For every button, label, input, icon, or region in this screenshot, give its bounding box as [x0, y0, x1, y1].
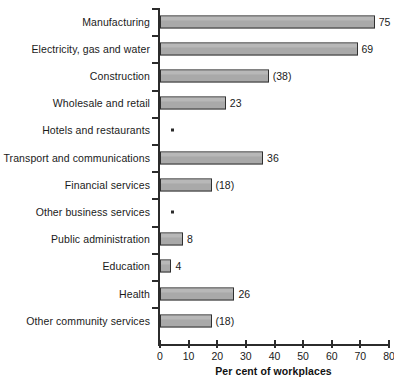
bar-highlight — [161, 288, 233, 292]
bar — [160, 178, 212, 191]
category-label: Construction — [90, 70, 150, 82]
bar-row: Construction(38) — [0, 62, 394, 89]
bar-row: Other business services — [0, 198, 394, 225]
x-axis-tick — [302, 340, 304, 348]
y-axis-tick — [152, 198, 160, 200]
bar-value-label: 36 — [267, 152, 279, 164]
category-label: Hotels and restaurants — [42, 124, 150, 136]
x-axis-tick — [274, 340, 276, 348]
bar — [160, 42, 358, 55]
bar-value-label: (18) — [216, 179, 235, 191]
bar-value-label: 8 — [187, 233, 193, 245]
suppressed-value-marker — [171, 129, 174, 132]
bar-row: Other community services(18) — [0, 307, 394, 334]
bar-highlight — [161, 315, 211, 319]
y-axis-tick — [152, 117, 160, 119]
bar-value-label: (38) — [273, 70, 292, 82]
bar — [160, 233, 183, 246]
category-label: Manufacturing — [82, 16, 150, 28]
category-label: Other business services — [36, 206, 150, 218]
y-axis-tick — [152, 144, 160, 146]
suppressed-value-marker — [171, 210, 174, 213]
y-axis-tick — [152, 280, 160, 282]
bar — [160, 97, 226, 110]
y-axis-tick — [152, 253, 160, 255]
bar-row: Education4 — [0, 253, 394, 280]
y-axis-tick — [152, 226, 160, 228]
y-axis-tick — [152, 90, 160, 92]
y-axis-tick — [152, 35, 160, 37]
x-axis-tick — [188, 340, 190, 348]
bar-highlight — [161, 43, 357, 47]
bar-chart: Manufacturing75Electricity, gas and wate… — [0, 0, 394, 381]
x-axis-tick — [159, 340, 161, 348]
y-axis-tick — [152, 62, 160, 64]
x-axis-tick — [245, 340, 247, 348]
y-axis-tick — [152, 171, 160, 173]
bar — [160, 287, 234, 300]
x-axis-tick-label: 80 — [383, 350, 394, 362]
category-label: Wholesale and retail — [53, 97, 150, 109]
category-label: Financial services — [65, 179, 150, 191]
x-axis-tick — [388, 340, 390, 348]
x-axis-tick-label: 30 — [240, 350, 252, 362]
x-axis-tick — [359, 340, 361, 348]
x-axis-tick-label: 20 — [211, 350, 223, 362]
bar-value-label: 23 — [230, 97, 242, 109]
x-axis-tick-label: 50 — [297, 350, 309, 362]
bar — [160, 15, 375, 28]
bar-row: Transport and communications36 — [0, 144, 394, 171]
x-axis-tick-label: 0 — [157, 350, 163, 362]
bar-highlight — [161, 261, 170, 265]
x-axis-tick-label: 40 — [269, 350, 281, 362]
bar-row: Financial services(18) — [0, 171, 394, 198]
bar-value-label: 4 — [175, 260, 181, 272]
bar-value-label: 75 — [379, 16, 391, 28]
bar-highlight — [161, 152, 262, 156]
y-axis-tick — [152, 307, 160, 309]
x-axis-tick-label: 70 — [355, 350, 367, 362]
bar — [160, 151, 263, 164]
bar-highlight — [161, 234, 182, 238]
bar-highlight — [161, 70, 268, 74]
plot-area: Manufacturing75Electricity, gas and wate… — [0, 0, 394, 381]
category-label: Education — [102, 260, 150, 272]
bar-row: Hotels and restaurants — [0, 117, 394, 144]
bar-row: Public administration8 — [0, 226, 394, 253]
bar — [160, 314, 212, 327]
category-label: Transport and communications — [3, 152, 150, 164]
bar-highlight — [161, 16, 374, 20]
bar-value-label: (18) — [216, 315, 235, 327]
category-label: Other community services — [26, 315, 150, 327]
bar-highlight — [161, 98, 225, 102]
bar — [160, 260, 171, 273]
bar-row: Manufacturing75 — [0, 8, 394, 35]
x-axis-tick — [331, 340, 333, 348]
bar-row: Wholesale and retail23 — [0, 90, 394, 117]
bar — [160, 69, 269, 82]
bar-row: Electricity, gas and water69 — [0, 35, 394, 62]
bar-value-label: 69 — [362, 43, 374, 55]
x-axis-title: Per cent of workplaces — [158, 365, 389, 377]
category-label: Public administration — [51, 233, 150, 245]
x-axis-tick-label: 60 — [326, 350, 338, 362]
bar-row: Health26 — [0, 280, 394, 307]
x-axis-tick — [216, 340, 218, 348]
bar-value-label: 26 — [238, 288, 250, 300]
category-label: Electricity, gas and water — [31, 43, 150, 55]
x-axis-tick-label: 10 — [183, 350, 195, 362]
category-label: Health — [119, 288, 150, 300]
y-axis-tick — [152, 8, 160, 10]
bar-highlight — [161, 179, 211, 183]
